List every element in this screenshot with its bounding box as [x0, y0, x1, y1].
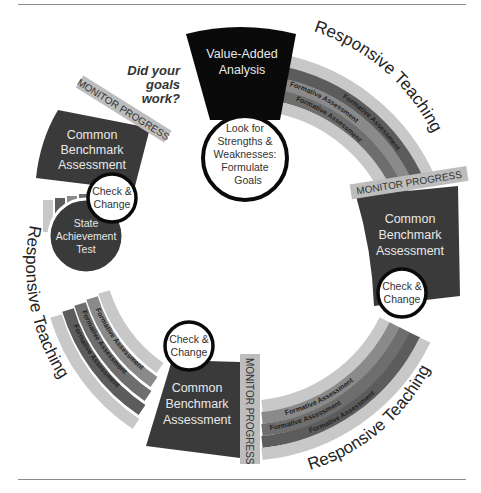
svg-text:State: State: [74, 217, 99, 229]
svg-text:Achievement: Achievement: [56, 230, 117, 242]
svg-text:Strengths &: Strengths &: [218, 135, 273, 147]
svg-text:Assessment: Assessment: [376, 244, 445, 258]
svg-text:Check &: Check &: [169, 333, 209, 345]
svg-text:Did your: Did your: [127, 63, 181, 78]
value-added-analysis-block: Value-Added Analysis: [186, 27, 296, 120]
svg-text:Benchmark: Benchmark: [60, 143, 124, 157]
svg-text:goals: goals: [145, 77, 180, 92]
svg-text:Weaknesses:: Weaknesses:: [214, 148, 277, 160]
strengths-weaknesses-circle: Look for Strengths & Weaknesses: Formula…: [203, 116, 287, 200]
svg-text:Formulate: Formulate: [221, 161, 268, 173]
svg-text:Change: Change: [384, 293, 421, 305]
svg-text:Common: Common: [172, 381, 223, 395]
svg-text:Common: Common: [385, 212, 436, 226]
left-check-and-change-circle: Check & Change: [88, 174, 136, 222]
svg-text:Analysis: Analysis: [219, 63, 266, 77]
svg-text:Value-Added: Value-Added: [206, 47, 277, 61]
svg-text:MONITOR PROGRESS: MONITOR PROGRESS: [244, 358, 255, 465]
svg-text:Goals: Goals: [234, 174, 261, 186]
svg-text:Benchmark: Benchmark: [165, 397, 229, 411]
svg-text:Check &: Check &: [382, 280, 422, 292]
svg-text:Look for: Look for: [226, 122, 264, 134]
teaching-cycle-diagram: Formative Assessment Formative Assessmen…: [0, 0, 481, 493]
svg-text:Assessment: Assessment: [163, 413, 232, 427]
bottom-benchmark-block: MONITOR PROGRESS Common Benchmark Assess…: [146, 354, 260, 465]
bottom-check-and-change-circle: Check & Change: [165, 322, 213, 370]
svg-text:Benchmark: Benchmark: [378, 228, 442, 242]
svg-text:Check &: Check &: [92, 185, 132, 197]
right-check-and-change-circle: Check & Change: [378, 269, 426, 317]
svg-text:Change: Change: [171, 346, 208, 358]
svg-text:work?: work?: [142, 91, 180, 106]
svg-text:Test: Test: [76, 243, 95, 255]
did-your-goals-work-question: Did your goals work?: [127, 63, 181, 106]
svg-text:Assessment: Assessment: [58, 158, 127, 172]
svg-text:Common: Common: [67, 128, 118, 142]
svg-text:Change: Change: [94, 198, 131, 210]
